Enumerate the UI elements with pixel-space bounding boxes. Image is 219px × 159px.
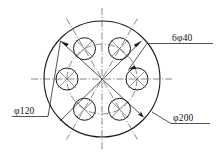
phi200-arrow bbox=[134, 41, 142, 47]
technical-drawing-canvas: 6φ40 φ120 φ200 bbox=[0, 0, 219, 159]
phi200-dim-line bbox=[60, 41, 142, 121]
bolt-circle-dimension-label: φ120 bbox=[14, 106, 35, 116]
phi200-leader-line bbox=[152, 112, 171, 124]
hole-60 bbox=[109, 38, 131, 60]
holes-dimension-label: 6φ40 bbox=[172, 33, 193, 43]
phi120-arrow-start bbox=[61, 41, 70, 47]
outer-diameter-dimension-label: φ200 bbox=[173, 113, 194, 123]
flange-drawing: 6φ40 φ120 φ200 bbox=[0, 0, 219, 159]
holes-leader-diagonal bbox=[129, 44, 148, 70]
holes-leader bbox=[129, 44, 214, 70]
outer-diameter-dimension-line bbox=[60, 41, 142, 121]
hole-240 bbox=[74, 98, 96, 120]
